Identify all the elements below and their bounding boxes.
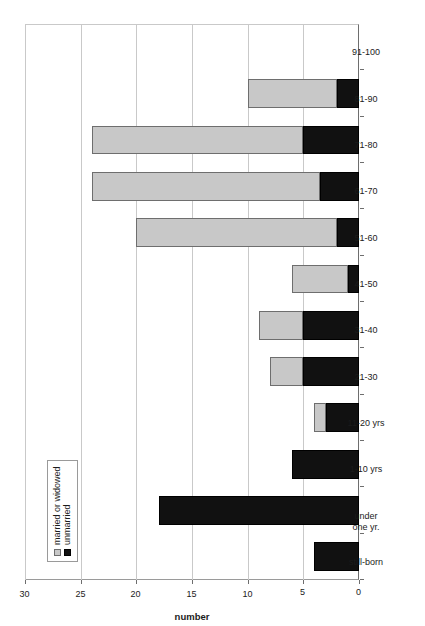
legend-label-married: married or widowed [53, 466, 62, 545]
category-axis-label-text: 31-40 [354, 325, 377, 336]
bar-slot[interactable] [25, 395, 359, 441]
rotated-figure-wrapper: number 051015202530 still-bornunderone y… [0, 0, 425, 626]
bar-slot[interactable] [25, 24, 359, 70]
bar-segment-married-or-widowed[interactable] [270, 357, 303, 386]
bar-slot[interactable] [25, 256, 359, 302]
category-axis-tick-mark [360, 486, 364, 487]
category-axis-label-text: 1-10 yrs [350, 464, 383, 475]
bar-segment-unmarried[interactable] [303, 311, 359, 340]
category-axis-label: 11-20 yrs [360, 395, 420, 441]
bar-slot[interactable] [25, 117, 359, 163]
bar-stack[interactable] [270, 357, 359, 386]
category-axis-label-text: 91-100 [352, 47, 380, 58]
category-axis-tick-mark [360, 116, 364, 117]
value-axis-tick-mark [359, 580, 360, 584]
bar-segment-unmarried[interactable] [320, 172, 359, 201]
bar-stack[interactable] [92, 126, 359, 155]
category-axis-tick-mark [360, 162, 364, 163]
category-axis-label: still-born [360, 534, 420, 580]
bar-segment-married-or-widowed[interactable] [92, 172, 320, 201]
bar-segment-unmarried[interactable] [159, 496, 359, 525]
category-axis-tick-mark [360, 394, 364, 395]
bar-stack[interactable] [136, 218, 359, 247]
bar-segment-unmarried[interactable] [303, 126, 359, 155]
category-axis-labels: still-bornunderone yr.1-10 yrs11-20 yrs2… [360, 24, 420, 580]
value-axis-tick-mark [248, 580, 249, 584]
category-axis-label: 71-80 [360, 117, 420, 163]
value-axis-tick-label: 10 [243, 590, 252, 626]
bar-segment-married-or-widowed[interactable] [248, 79, 337, 108]
category-axis-tick-mark [360, 579, 364, 580]
bar-segment-married-or-widowed[interactable] [136, 218, 336, 247]
bar-stack[interactable] [248, 79, 359, 108]
category-axis-tick-mark [360, 255, 364, 256]
category-axis-tick-mark [360, 301, 364, 302]
category-axis-tick-mark [360, 440, 364, 441]
bar-slot[interactable] [25, 70, 359, 116]
bar-stack[interactable] [292, 265, 359, 294]
category-axis-label: 91-100 [360, 24, 420, 70]
category-axis-label: 51-60 [360, 209, 420, 255]
bar-slot[interactable] [25, 302, 359, 348]
category-axis-label-text: 61-70 [354, 186, 377, 197]
category-axis-label-text: 81-90 [354, 94, 377, 105]
value-axis-tick-mark [136, 580, 137, 584]
category-axis-tick-mark [360, 533, 364, 534]
bar-segment-married-or-widowed[interactable] [92, 126, 304, 155]
bar-slot[interactable] [25, 348, 359, 394]
value-axis-tick-label: 5 [298, 590, 307, 626]
bar-stack[interactable] [259, 311, 359, 340]
chart-legend: married or widowed unmarried [47, 460, 78, 562]
category-axis-tick-mark [360, 347, 364, 348]
category-axis-label-text: 21-30 [354, 372, 377, 383]
category-axis-tick-mark [360, 69, 364, 70]
category-axis-label: 1-10 yrs [360, 441, 420, 487]
category-axis-label: underone yr. [360, 487, 420, 533]
value-axis-tick-mark [81, 580, 82, 584]
bar-segment-unmarried[interactable] [303, 357, 359, 386]
chart-page: number 051015202530 still-bornunderone y… [0, 0, 425, 626]
category-axis-label-text: still-born [349, 557, 383, 568]
category-axis-label: 21-30 [360, 348, 420, 394]
category-axis-label-text: 71-80 [354, 140, 377, 151]
legend-swatch-unmarried-icon [64, 549, 71, 556]
bar-slot[interactable] [25, 163, 359, 209]
bar-segment-married-or-widowed[interactable] [292, 265, 348, 294]
bar-slot[interactable] [25, 209, 359, 255]
category-axis-label: 61-70 [360, 163, 420, 209]
value-axis-tick-label: 15 [187, 590, 196, 626]
category-axis-label-text: 51-60 [354, 233, 377, 244]
bar-segment-married-or-widowed[interactable] [314, 404, 325, 433]
bar-segment-married-or-widowed[interactable] [259, 311, 304, 340]
category-axis-label-text: 11-20 yrs [348, 418, 385, 429]
value-axis-tick-mark [192, 580, 193, 584]
legend-swatch-married-icon [54, 549, 61, 556]
value-axis-tick-label: 0 [354, 590, 363, 626]
category-axis-label: 81-90 [360, 70, 420, 116]
category-axis-label-text: 41-50 [354, 279, 377, 290]
bar-stack[interactable] [92, 172, 359, 201]
category-axis-label: 41-50 [360, 256, 420, 302]
category-axis-label: 31-40 [360, 302, 420, 348]
legend-label-unmarried: unmarried [63, 504, 72, 545]
category-axis-label-text: underone yr. [343, 511, 389, 532]
value-axis-tick-mark [303, 580, 304, 584]
category-axis-tick-mark [360, 208, 364, 209]
legend-entry-unmarried: unmarried [63, 466, 72, 556]
value-axis-tick-label: 30 [20, 590, 29, 626]
legend-entry-married: married or widowed [53, 466, 62, 556]
value-axis-tick-label: 20 [131, 590, 140, 626]
bar-stack[interactable] [159, 496, 359, 525]
chart-figure: number 051015202530 still-bornunderone y… [0, 0, 425, 626]
value-axis-tick-mark [25, 580, 26, 584]
value-axis-tick-label: 25 [76, 590, 85, 626]
